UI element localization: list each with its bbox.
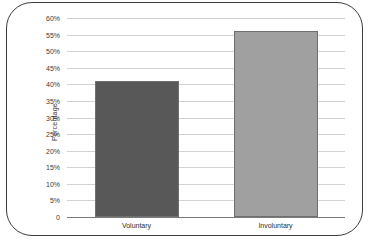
y-axis-tick-label: 25% bbox=[46, 131, 60, 138]
y-axis-tick-label: 40% bbox=[46, 81, 60, 88]
gridline bbox=[67, 18, 345, 19]
y-axis-tick-label: 35% bbox=[46, 97, 60, 104]
x-axis-tick-label: Voluntary bbox=[122, 222, 151, 229]
y-axis-tick-label: 50% bbox=[46, 48, 60, 55]
y-axis-tick-label: 15% bbox=[46, 164, 60, 171]
y-axis-tick-label: 20% bbox=[46, 147, 60, 154]
y-axis-tick-label: 10% bbox=[46, 180, 60, 187]
y-axis-tick-label: 5% bbox=[50, 197, 60, 204]
bar-voluntary bbox=[95, 81, 179, 217]
y-axis-tick-label: 45% bbox=[46, 64, 60, 71]
bar-involuntary bbox=[234, 31, 318, 217]
x-axis-tick-label: Involuntary bbox=[258, 222, 292, 229]
plot-area: 60%55%50%45%40%35%30%25%20%15%10%5%0 Vol… bbox=[67, 18, 345, 217]
bar-chart-figure: Percentage 60%55%50%45%40%35%30%25%20%15… bbox=[0, 0, 371, 243]
y-axis-tick-label: 30% bbox=[46, 114, 60, 121]
y-axis-tick-label: 60% bbox=[46, 15, 60, 22]
chart-title bbox=[0, 0, 371, 2]
gridline bbox=[67, 217, 345, 218]
y-axis-tick-label: 0 bbox=[56, 214, 60, 221]
y-axis-tick-label: 55% bbox=[46, 31, 60, 38]
